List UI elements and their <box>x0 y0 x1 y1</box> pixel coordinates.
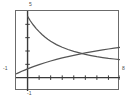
plot-svg <box>16 11 120 91</box>
y-min-label: -1 <box>27 91 31 96</box>
x-min-label: -1 <box>3 66 7 71</box>
x-max-label: 8 <box>122 66 125 71</box>
decreasing-curve <box>28 16 120 59</box>
plot-frame <box>15 10 119 90</box>
increasing-curve <box>16 47 120 74</box>
y-max-label: 5 <box>29 2 32 7</box>
graphing-calculator-screen: 5 -1 -1 8 <box>0 0 133 100</box>
